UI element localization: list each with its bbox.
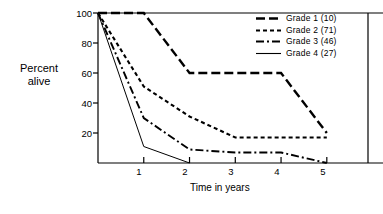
- legend-label-grade-1: Grade 1 (10): [286, 13, 337, 25]
- legend: Grade 1 (10) Grade 2 (71) Grade 3 (46) G…: [256, 13, 337, 59]
- legend-swatch-grade-3: [256, 37, 281, 46]
- legend-item-grade-1[interactable]: Grade 1 (10): [256, 13, 337, 25]
- axes: [93, 13, 383, 163]
- legend-label-grade-4: Grade 4 (27): [286, 48, 337, 60]
- legend-swatch-grade-4: [256, 49, 281, 58]
- legend-swatch-grade-1: [256, 14, 281, 23]
- legend-swatch-grade-2: [256, 26, 281, 35]
- series-line-grade-4: [98, 13, 190, 163]
- legend-item-grade-3[interactable]: Grade 3 (46): [256, 36, 337, 48]
- legend-label-grade-3: Grade 3 (46): [286, 36, 337, 48]
- legend-label-grade-2: Grade 2 (71): [286, 25, 337, 37]
- legend-item-grade-2[interactable]: Grade 2 (71): [256, 25, 337, 37]
- legend-item-grade-4[interactable]: Grade 4 (27): [256, 48, 337, 60]
- survival-curve-figure: Percent alive Time in years 100 80 60 40…: [0, 0, 383, 214]
